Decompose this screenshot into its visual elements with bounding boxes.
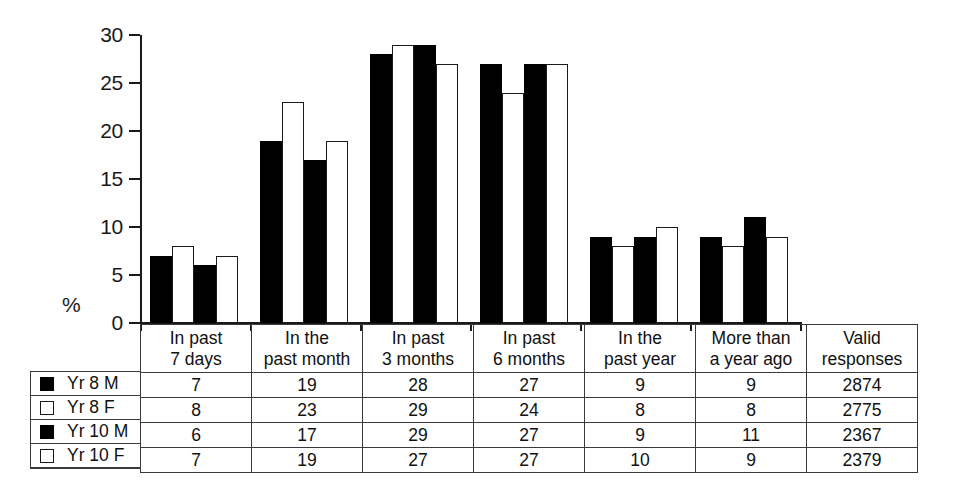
- cell-r3-c3: 27: [474, 448, 585, 473]
- cell-r2-c6: 2367: [807, 423, 918, 448]
- cell-r1-c0: 8: [141, 398, 252, 423]
- open-square-icon: [40, 449, 54, 463]
- column-header-line2: past month: [252, 349, 362, 370]
- cell-r2-c2: 29: [363, 423, 474, 448]
- bar-yr-10-m-group-0: [194, 265, 216, 323]
- bar-yr-8-f-group-4: [612, 246, 634, 323]
- bar-yr-10-f-group-0: [216, 256, 238, 323]
- column-header-4: In thepast year: [585, 325, 696, 373]
- legend-item-yr-8-m: Yr 8 M: [31, 372, 140, 396]
- bar-yr-8-m-group-5: [700, 237, 722, 323]
- cell-r0-c3: 27: [474, 373, 585, 398]
- cell-r2-c0: 6: [141, 423, 252, 448]
- bar-yr-10-m-group-5: [744, 217, 766, 323]
- y-tick-label-20: 20: [77, 120, 123, 141]
- cell-r0-c6: 2874: [807, 373, 918, 398]
- column-header-line2: a year ago: [696, 349, 806, 370]
- legend-item-yr-10-f: Yr 10 F: [31, 444, 140, 468]
- legend: Yr 8 MYr 8 FYr 10 MYr 10 F: [30, 371, 140, 469]
- cell-r1-c4: 8: [585, 398, 696, 423]
- column-header-line1: In the: [585, 328, 695, 349]
- column-header-line1: In past: [474, 328, 584, 349]
- legend-label: Yr 10 F: [67, 447, 124, 465]
- bar-yr-10-m-group-4: [634, 237, 656, 323]
- column-header-2: In past3 months: [363, 325, 474, 373]
- y-tick-label-0: 0: [77, 312, 123, 333]
- bar-yr-10-m-group-1: [304, 160, 326, 323]
- bar-yr-8-f-group-0: [172, 246, 194, 323]
- column-header-5: More thana year ago: [696, 325, 807, 373]
- bar-yr-8-m-group-3: [480, 64, 502, 323]
- cell-r3-c4: 10: [585, 448, 696, 473]
- cell-r0-c4: 9: [585, 373, 696, 398]
- bar-yr-10-f-group-2: [436, 64, 458, 323]
- cell-r1-c5: 8: [696, 398, 807, 423]
- bar-yr-10-m-group-2: [414, 45, 436, 323]
- legend-item-yr-8-f: Yr 8 F: [31, 396, 140, 420]
- filled-square-icon: [40, 377, 54, 391]
- column-header-line1: In past: [363, 328, 473, 349]
- chart-page: 051015202530 % In past7 daysIn thepast m…: [0, 0, 959, 493]
- column-header-line1: Valid: [807, 328, 917, 349]
- legend-label: Yr 8 F: [67, 399, 115, 417]
- y-tick-0: [129, 322, 140, 324]
- cell-r2-c5: 11: [696, 423, 807, 448]
- table-row: 7192827992874: [141, 373, 918, 398]
- y-tick-20: [129, 130, 140, 132]
- cell-r3-c5: 9: [696, 448, 807, 473]
- y-tick-label-30: 30: [77, 24, 123, 45]
- bar-yr-10-f-group-4: [656, 227, 678, 323]
- bar-yr-8-m-group-4: [590, 237, 612, 323]
- y-tick-label-5: 5: [77, 264, 123, 285]
- cell-r3-c6: 2379: [807, 448, 918, 473]
- bar-yr-8-f-group-5: [722, 246, 744, 323]
- cell-r1-c3: 24: [474, 398, 585, 423]
- bar-yr-10-f-group-1: [326, 141, 348, 323]
- open-square-icon: [40, 401, 54, 415]
- column-header-0: In past7 days: [141, 325, 252, 373]
- cell-r0-c0: 7: [141, 373, 252, 398]
- legend-label: Yr 10 M: [67, 423, 128, 441]
- column-header-line2: past year: [585, 349, 695, 370]
- table-header-row: In past7 daysIn thepast monthIn past3 mo…: [141, 325, 918, 373]
- column-header-line1: More than: [696, 328, 806, 349]
- cell-r0-c5: 9: [696, 373, 807, 398]
- filled-square-icon: [40, 425, 54, 439]
- cell-r1-c1: 23: [252, 398, 363, 423]
- column-header-1: In thepast month: [252, 325, 363, 373]
- y-axis-label: %: [62, 294, 81, 315]
- plot-area: [140, 35, 800, 323]
- column-header-line2: responses: [807, 349, 917, 370]
- y-tick-25: [129, 82, 140, 84]
- y-tick-5: [129, 274, 140, 276]
- y-tick-label-10: 10: [77, 216, 123, 237]
- data-table: In past7 daysIn thepast monthIn past3 mo…: [140, 324, 918, 473]
- table-row: 8232924882775: [141, 398, 918, 423]
- column-header-3: In past6 months: [474, 325, 585, 373]
- bar-yr-8-m-group-0: [150, 256, 172, 323]
- legend-label: Yr 8 M: [67, 375, 119, 393]
- column-header-line1: In past: [141, 328, 251, 349]
- cell-r1-c2: 29: [363, 398, 474, 423]
- legend-item-yr-10-m: Yr 10 M: [31, 420, 140, 444]
- cell-r0-c2: 28: [363, 373, 474, 398]
- cell-r3-c0: 7: [141, 448, 252, 473]
- cell-r2-c4: 9: [585, 423, 696, 448]
- bar-yr-10-f-group-3: [546, 64, 568, 323]
- cell-r1-c6: 2775: [807, 398, 918, 423]
- column-header-line2: 6 months: [474, 349, 584, 370]
- y-tick-label-15: 15: [77, 168, 123, 189]
- column-header-line2: 7 days: [141, 349, 251, 370]
- y-tick-label-25: 25: [77, 72, 123, 93]
- table-row: 71927271092379: [141, 448, 918, 473]
- y-tick-15: [129, 178, 140, 180]
- cell-r0-c1: 19: [252, 373, 363, 398]
- column-header-line2: 3 months: [363, 349, 473, 370]
- bar-yr-8-f-group-2: [392, 45, 414, 323]
- bar-yr-8-f-group-3: [502, 93, 524, 323]
- y-tick-30: [129, 34, 140, 36]
- cell-r3-c1: 19: [252, 448, 363, 473]
- cell-r3-c2: 27: [363, 448, 474, 473]
- bar-yr-8-m-group-2: [370, 54, 392, 323]
- bar-yr-8-m-group-1: [260, 141, 282, 323]
